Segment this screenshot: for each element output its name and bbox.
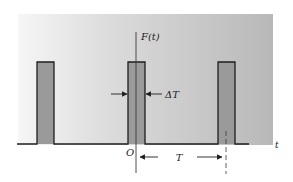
pulse-1 bbox=[37, 62, 54, 144]
time-axis-label: t bbox=[275, 140, 279, 150]
pulse-width-label: ΔT bbox=[164, 89, 180, 100]
function-label: F(t) bbox=[140, 31, 160, 42]
pulse-2 bbox=[128, 62, 145, 144]
pulse-3 bbox=[218, 62, 235, 144]
period-label: T bbox=[176, 152, 184, 163]
pulse-train-diagram: F(t) ΔT O T t bbox=[0, 0, 293, 182]
origin-label: O bbox=[126, 147, 134, 158]
